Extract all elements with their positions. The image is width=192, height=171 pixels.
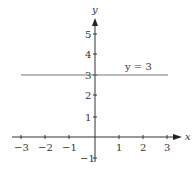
x-tick-label: 2	[140, 142, 146, 153]
y-axis-arrow-icon	[92, 18, 98, 26]
x-tick-label: −1	[62, 142, 77, 153]
line-label: y = 3	[124, 61, 152, 72]
x-axis-arrow-icon	[173, 134, 182, 140]
y-tick-label: −1	[80, 153, 95, 164]
y-tick-label: 2	[85, 90, 91, 101]
x-tick-label: 1	[116, 142, 122, 153]
y-axis-label: y	[91, 4, 98, 15]
y-tick-label: 1	[85, 112, 91, 123]
x-axis-label: x	[185, 131, 191, 142]
graph: x y −3 −2 −1 1 2 3 5 4 3 2 1 −1 y = 3	[0, 0, 192, 171]
y-tick-label: 5	[85, 29, 91, 40]
y-tick-label: 4	[85, 49, 91, 60]
x-tick-label: 3	[164, 142, 170, 153]
x-tick-label: −3	[14, 142, 29, 153]
x-tick-label: −2	[38, 142, 53, 153]
